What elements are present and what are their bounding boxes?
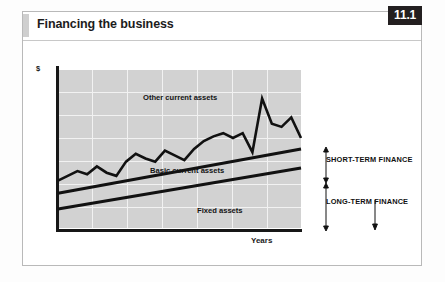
label-basic-current-assets: Basic current assets (150, 166, 224, 175)
label-other-current-assets: Other current assets (143, 93, 217, 102)
figure-header: Financing the business 11.1 (23, 12, 421, 40)
figure-root: Financing the business 11.1 $ (0, 0, 445, 282)
label-long-term-finance: LONG-TERM FINANCE (326, 197, 408, 206)
chart-area: $ (23, 40, 423, 266)
header-accent-bar (23, 14, 29, 37)
figure-card: Financing the business 11.1 $ (22, 11, 422, 266)
label-short-term-finance: SHORT-TERM FINANCE (326, 155, 412, 164)
label-fixed-assets: Fixed assets (197, 206, 243, 215)
x-axis-label: Years (251, 236, 272, 245)
page-title: Financing the business (37, 17, 174, 31)
chart-series-svg (23, 40, 423, 266)
long-term-finance-arrow (324, 183, 329, 231)
short-term-finance-arrow (324, 147, 329, 183)
status-badge: 11.1 (388, 6, 422, 25)
